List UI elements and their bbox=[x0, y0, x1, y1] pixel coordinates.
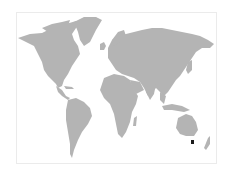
india bbox=[146, 82, 156, 100]
caribbean bbox=[64, 86, 74, 89]
madagascar bbox=[133, 116, 137, 126]
greenland bbox=[74, 17, 102, 46]
world-map bbox=[0, 0, 229, 171]
australia bbox=[176, 114, 198, 136]
new-zealand bbox=[204, 136, 210, 150]
uk-iceland bbox=[100, 42, 106, 50]
south-america bbox=[66, 98, 92, 158]
indonesia bbox=[162, 104, 190, 112]
location-marker[interactable] bbox=[191, 140, 194, 144]
